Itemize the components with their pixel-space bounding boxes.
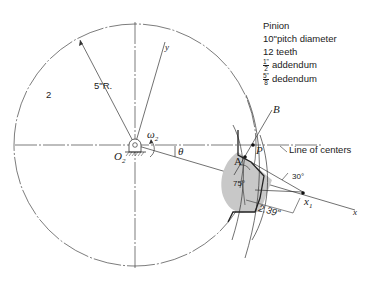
dimension-ext <box>293 198 300 213</box>
spec-pitch-diameter: 10"pitch diameter <box>263 32 337 45</box>
dedendum-den: 8 <box>263 80 269 86</box>
x-axis-label: x <box>352 207 357 217</box>
spec-addendum: 1"2addendum <box>263 58 337 72</box>
addendum-label: addendum <box>272 59 317 70</box>
dedendum-label: dedendum <box>272 73 317 84</box>
spec-teeth: 12 teeth <box>263 45 337 58</box>
angle-30-label: 30° <box>292 172 304 181</box>
spec-title: Pinion <box>263 19 337 32</box>
spec-dedendum: 5"8dedendum <box>263 72 337 86</box>
addendum-fraction: 1"2 <box>263 59 269 72</box>
omega-label: ω2 <box>147 128 159 143</box>
point-a-label: A <box>234 155 242 167</box>
line-of-centers-leader <box>280 146 287 152</box>
distance-label: 2.39" <box>257 202 283 219</box>
radius-line <box>80 40 135 145</box>
point-p-label: P <box>255 144 263 156</box>
dedendum-fraction: 5"8 <box>263 73 269 86</box>
point-b-label: B <box>273 103 280 115</box>
pivot-label: O2 <box>114 150 126 165</box>
radius-label: 5"R. <box>94 80 112 91</box>
theta-label: θ <box>178 145 184 157</box>
line-of-centers-label: Line of centers <box>289 144 352 155</box>
pinion-specs: Pinion 10"pitch diameter 12 teeth 1"2add… <box>263 19 337 86</box>
y-axis-label: y <box>164 42 169 52</box>
gear-number-label: 2 <box>46 89 51 100</box>
angle-30-leader <box>282 173 288 180</box>
pitch-point <box>251 143 255 147</box>
angle-75-label: 75° <box>233 179 245 188</box>
